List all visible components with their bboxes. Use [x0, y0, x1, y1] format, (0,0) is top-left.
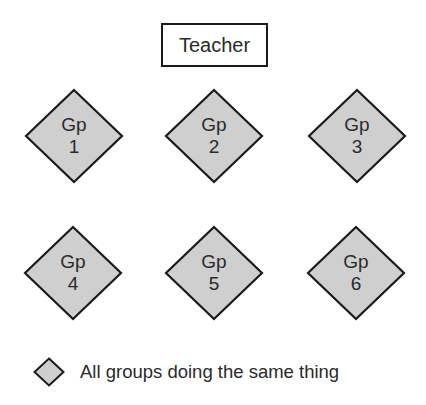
teacher-box: Teacher: [161, 23, 268, 67]
group-node-3: Gp 3: [307, 88, 407, 184]
diamond-icon: [33, 357, 65, 387]
group-number: 5: [209, 273, 220, 295]
group-node-1: Gp 1: [24, 88, 124, 184]
group-label: Gp: [61, 114, 86, 136]
group-label: Gp: [344, 114, 369, 136]
teacher-label: Teacher: [179, 34, 250, 57]
group-label: Gp: [343, 251, 368, 273]
group-node-2: Gp 2: [164, 88, 264, 184]
group-number: 3: [352, 136, 363, 158]
group-number: 2: [209, 136, 220, 158]
group-node-4: Gp 4: [23, 225, 123, 321]
group-node-6: Gp 6: [306, 225, 406, 321]
group-node-5: Gp 5: [164, 225, 264, 321]
group-label: Gp: [201, 251, 226, 273]
group-number: 6: [351, 273, 362, 295]
group-number: 4: [68, 273, 79, 295]
legend: All groups doing the same thing: [33, 356, 339, 388]
group-label: Gp: [201, 114, 226, 136]
group-label: Gp: [60, 251, 85, 273]
legend-label: All groups doing the same thing: [80, 361, 339, 383]
group-number: 1: [69, 136, 80, 158]
